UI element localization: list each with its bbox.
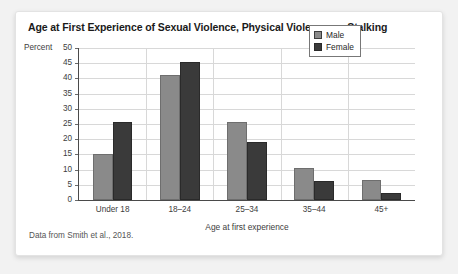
y-axis-tick: [75, 63, 78, 64]
y-axis-tick-label: 30: [50, 105, 72, 113]
x-axis-tick-label: 45+: [348, 205, 415, 214]
bar-male-1: [160, 75, 180, 200]
chart-legend: Male Female: [309, 25, 361, 57]
y-axis-tick-label: 40: [50, 74, 72, 82]
y-axis-tick: [75, 154, 78, 155]
y-axis-tick-label: 35: [50, 90, 72, 98]
y-axis-tick: [75, 185, 78, 186]
bar-female-1: [180, 62, 200, 200]
y-axis-tick: [75, 124, 78, 125]
legend-swatch-female-icon: [314, 43, 322, 51]
y-axis-tick-label: 45: [50, 59, 72, 67]
legend-item-female: Female: [314, 41, 354, 53]
gridline-horizontal: [79, 63, 415, 64]
gridline-horizontal: [79, 109, 415, 110]
y-axis-tick-label: 50: [50, 44, 72, 52]
chart-card: Age at First Experience of Sexual Violen…: [15, 11, 443, 256]
bar-female-4: [381, 193, 401, 200]
gridline-vertical: [281, 48, 282, 200]
y-axis-tick-label: 0: [50, 196, 72, 204]
y-axis-title: Percent: [24, 43, 52, 52]
x-axis-tick-label: 35–44: [281, 205, 348, 214]
gridline-vertical: [213, 48, 214, 200]
bar-female-2: [247, 142, 267, 200]
gridline-vertical: [348, 48, 349, 200]
legend-item-male: Male: [314, 29, 354, 41]
gridline-horizontal: [79, 78, 415, 79]
y-axis-tick: [75, 170, 78, 171]
y-axis-tick-label: 15: [50, 150, 72, 158]
y-axis-tick: [75, 200, 78, 201]
bar-male-4: [362, 180, 382, 200]
y-axis-tick: [75, 109, 78, 110]
gridline-vertical: [146, 48, 147, 200]
source-note: Data from Smith et al., 2018.: [29, 231, 133, 240]
legend-label-male: Male: [326, 31, 344, 39]
y-axis-tick-label: 5: [50, 181, 72, 189]
x-axis-tick-label: 18–24: [146, 205, 213, 214]
bar-female-3: [314, 181, 334, 200]
y-axis-tick: [75, 78, 78, 79]
bar-male-3: [294, 168, 314, 200]
y-axis-tick-label: 10: [50, 166, 72, 174]
y-axis-tick: [75, 48, 78, 49]
legend-swatch-male-icon: [314, 31, 322, 39]
legend-label-female: Female: [326, 43, 354, 51]
plot-area: 05101520253035404550Under 1818–2425–3435…: [78, 48, 415, 201]
bar-male-0: [93, 154, 113, 200]
bar-male-2: [227, 122, 247, 200]
y-axis-tick: [75, 139, 78, 140]
gridline-horizontal: [79, 94, 415, 95]
bar-female-0: [113, 122, 133, 200]
x-axis-tick-label: Under 18: [79, 205, 146, 214]
chart-plot-wrapper: Percent 05101520253035404550Under 1818–2…: [16, 12, 444, 257]
y-axis-tick-label: 20: [50, 135, 72, 143]
y-axis-tick: [75, 94, 78, 95]
y-axis-tick-label: 25: [50, 120, 72, 128]
gridline-horizontal: [79, 48, 415, 49]
x-axis-tick-label: 25–34: [213, 205, 280, 214]
